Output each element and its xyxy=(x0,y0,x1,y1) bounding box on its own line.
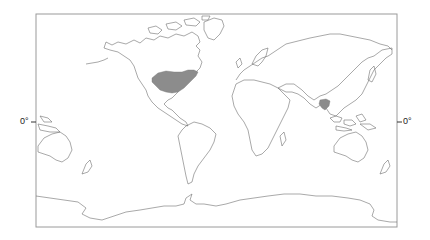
shaded-region-eastern-us xyxy=(152,70,198,93)
antarctica-coast xyxy=(36,194,397,222)
equator-label-left: 0° xyxy=(20,116,29,126)
map-frame xyxy=(36,14,397,227)
australia-east-coast xyxy=(334,132,368,162)
south-america-coast xyxy=(178,122,216,184)
shaded-region-southeast-asia xyxy=(319,99,330,110)
indonesia-islands xyxy=(330,114,376,131)
australia-west-coast xyxy=(38,132,72,162)
greenland-coast xyxy=(204,18,224,40)
europe-coast xyxy=(236,34,392,80)
asia-coast xyxy=(278,48,392,116)
new-zealand-west xyxy=(82,160,92,174)
world-map xyxy=(0,0,430,240)
indonesia-west xyxy=(38,116,60,132)
africa-coast xyxy=(232,80,290,156)
madagascar xyxy=(280,132,286,146)
aleutian-islands xyxy=(86,58,108,64)
equator-label-right: 0° xyxy=(403,116,412,126)
british-isles xyxy=(236,58,242,68)
arctic-islands xyxy=(148,16,210,34)
new-zealand-east xyxy=(380,160,390,174)
